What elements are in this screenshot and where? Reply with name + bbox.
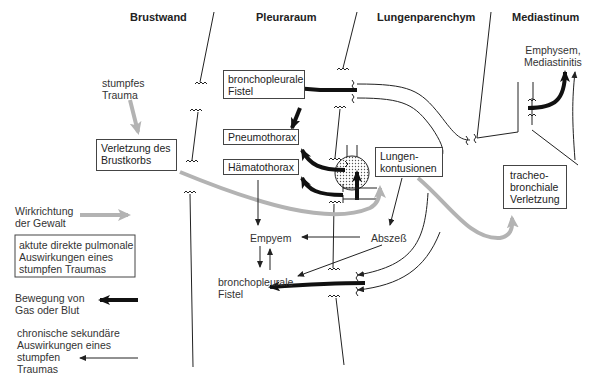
bronchopleural-fistula-top-box: bronchopleurale Fistel	[223, 70, 305, 99]
lung-contusions-box: Lungen- kontusionen	[375, 147, 443, 177]
arrow-abscess-to-fistula	[298, 245, 382, 276]
arrow-fistula-to-pneumothorax	[292, 108, 300, 128]
bronchopleural-fistula-bottom-label: bronchopleurale Fistel	[218, 276, 293, 300]
arrow-contusion-to-abscess	[390, 178, 402, 225]
legend-gas-blood-label: Bewegung von Gas oder Blut	[15, 292, 84, 316]
column-header-mediastinum: Mediastinum	[512, 11, 579, 23]
chest-wall-boundary	[184, 12, 214, 367]
arrow-to-emphysema	[528, 72, 565, 108]
empyema-label: Empyem	[250, 232, 291, 244]
alveolus-icon	[335, 145, 369, 190]
pneumothorax-box: Pneumothorax	[223, 129, 299, 145]
emphysema-label: Emphysem, Mediastinitis	[524, 44, 582, 68]
chest-wall-injury-box: Verletzung des Brustkorbs	[96, 139, 177, 171]
arrow-trauma-to-chest	[130, 100, 138, 132]
column-header-pleural-space: Pleuraraum	[256, 11, 317, 23]
legend-chronic-effects-label: chronische sekundäre Auswirkungen eines …	[17, 327, 120, 375]
column-header-chest-wall: Brustwand	[130, 11, 187, 23]
arrow-force-to-tracheobronchial	[418, 178, 512, 238]
tracheobronchial-injury-box: tracheo- bronchiale Verletzung	[503, 165, 567, 209]
hemothorax-box: Hämatothorax	[223, 159, 299, 175]
abscess-label: Abszeß	[371, 232, 407, 244]
blunt-trauma-label: stumpfes Trauma	[102, 77, 145, 101]
legend-acute-effects-label: aktute direkte pulmonale Auswirkungen ei…	[19, 239, 133, 275]
bronchus-tube	[352, 80, 476, 156]
arrow-tracheobronchial-to-emphysema	[573, 72, 575, 160]
column-header-lung-parenchyma: Lungenparenchym	[377, 11, 475, 23]
legend-force-direction-label: Wirkrichtung der Gewalt	[15, 205, 73, 229]
